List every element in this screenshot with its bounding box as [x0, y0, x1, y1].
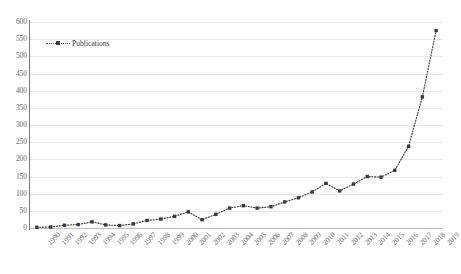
y-tick-label: 50: [1, 207, 27, 215]
gridline-500: [30, 56, 443, 57]
y-axis-line: [29, 20, 30, 230]
x-tick-label: 2007: [280, 231, 295, 246]
gridline-300: [30, 125, 443, 126]
y-tick-label: 450: [1, 70, 27, 78]
x-axis-tick-labels: 1990199119921993199419951996199719981999…: [30, 229, 443, 274]
gridline-600: [30, 22, 443, 23]
y-tick-label: 0: [1, 224, 27, 232]
y-tick-label: 250: [1, 138, 27, 146]
legend-label: Publications: [72, 39, 110, 48]
x-tick-label: 2016: [404, 231, 419, 246]
y-tick-label: 150: [1, 173, 27, 181]
plot-area: [30, 22, 443, 228]
x-tick-label: 2019: [445, 231, 460, 246]
y-tick-label: 400: [1, 87, 27, 95]
x-tick-label: 1999: [170, 231, 185, 246]
gridline-350: [30, 108, 443, 109]
gridline-250: [30, 142, 443, 143]
gridline-200: [30, 159, 443, 160]
x-tick-label: 2011: [335, 231, 350, 246]
y-axis-tick-labels: 600550500450400350300250200150100500: [0, 0, 27, 274]
x-tick-label: 1990: [46, 231, 61, 246]
y-tick-label: 100: [1, 190, 27, 198]
y-tick-label: 200: [1, 155, 27, 163]
gridline-150: [30, 177, 443, 178]
x-tick-label: 2012: [349, 231, 364, 246]
y-tick-label: 550: [1, 35, 27, 43]
x-tick-label: 2003: [225, 231, 240, 246]
x-tick-label: 1994: [101, 231, 116, 246]
y-tick-label: 600: [1, 18, 27, 26]
y-tick-label: 300: [1, 121, 27, 129]
legend-marker-icon: [46, 40, 70, 48]
chart-legend: Publications: [46, 39, 110, 48]
gridline-100: [30, 194, 443, 195]
y-tick-label: 500: [1, 52, 27, 60]
y-tick-label: 350: [1, 104, 27, 112]
gridline-50: [30, 211, 443, 212]
gridline-450: [30, 74, 443, 75]
gridline-400: [30, 91, 443, 92]
